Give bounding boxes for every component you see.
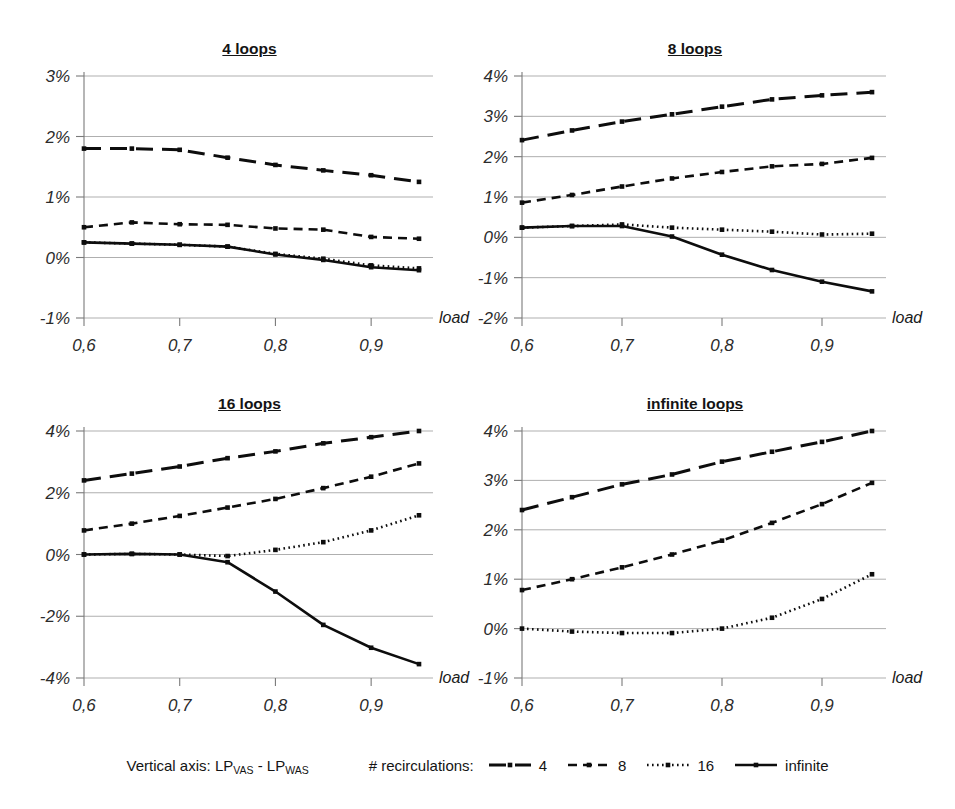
data-point-marker <box>130 471 135 476</box>
series-line-8 <box>522 483 872 590</box>
y-tick-label: 4% <box>483 422 508 441</box>
data-point-marker <box>670 176 675 181</box>
data-point-marker <box>820 232 825 237</box>
data-point-marker <box>321 168 326 173</box>
data-point-marker <box>177 464 182 469</box>
series-line-4 <box>522 431 872 510</box>
series-line-16 <box>522 574 872 633</box>
legend-swatch-long-dash <box>488 758 532 772</box>
legend-entry-infinite: infinite <box>734 757 828 774</box>
data-point-marker <box>620 119 625 124</box>
y-tick-label: 3% <box>483 471 508 490</box>
vertical-axis-note: Vertical axis: LPVAS - LPWAS <box>127 757 309 774</box>
legend-swatch-dot <box>646 758 690 772</box>
series-line-16 <box>84 515 419 556</box>
data-point-marker <box>520 225 525 230</box>
data-point-marker <box>720 626 725 631</box>
data-point-marker <box>82 240 87 245</box>
data-point-marker <box>82 225 87 230</box>
vertical-axis-note-prefix: Vertical axis: LP <box>127 757 234 774</box>
data-point-marker <box>570 224 575 229</box>
y-tick-label: -2% <box>40 607 70 626</box>
data-point-marker <box>820 597 825 602</box>
data-point-marker <box>520 588 525 593</box>
vertical-axis-note-sub-was: WAS <box>285 764 309 776</box>
data-point-marker <box>82 528 87 533</box>
y-tick-label: 1% <box>45 188 70 207</box>
x-tick-label: 0,8 <box>710 336 734 355</box>
y-tick-label: 0% <box>45 546 70 565</box>
data-point-marker <box>570 193 575 198</box>
data-point-marker <box>130 220 135 225</box>
data-point-marker <box>770 229 775 234</box>
data-point-marker <box>770 449 775 454</box>
legend-label: 4 <box>539 757 547 774</box>
data-point-marker <box>720 459 725 464</box>
data-point-marker <box>417 513 422 518</box>
y-tick-label: 2% <box>482 521 508 540</box>
legend-entry-list: 4816infinite <box>488 757 829 774</box>
x-tick-label: 0,7 <box>168 336 192 355</box>
legend-title: # recirculations: <box>369 757 474 774</box>
chart-plot-area: -4%-2%0%2%4%0,60,70,80,9load <box>22 417 477 740</box>
data-point-marker <box>82 478 87 483</box>
data-point-marker <box>369 173 374 178</box>
data-point-marker <box>417 268 422 273</box>
data-point-marker <box>520 626 525 631</box>
data-point-marker <box>570 128 575 133</box>
data-point-marker <box>570 495 575 500</box>
data-point-marker <box>520 200 525 205</box>
data-point-marker <box>177 222 182 227</box>
x-tick-label: 0,7 <box>610 696 634 715</box>
data-point-marker <box>177 514 182 519</box>
data-point-marker <box>273 589 278 594</box>
data-point-marker <box>369 645 374 650</box>
data-point-marker <box>417 662 422 667</box>
data-point-marker <box>130 241 135 246</box>
data-point-marker <box>369 528 374 533</box>
data-point-marker <box>321 441 326 446</box>
legend-label: 8 <box>618 757 626 774</box>
data-point-marker <box>369 474 374 479</box>
data-point-marker <box>130 521 135 526</box>
data-point-marker <box>670 552 675 557</box>
data-point-marker <box>82 146 87 151</box>
data-point-marker <box>770 615 775 620</box>
data-point-marker <box>670 631 675 636</box>
data-point-marker <box>720 170 725 175</box>
x-tick-label: 0,9 <box>810 696 834 715</box>
data-point-marker <box>670 234 675 239</box>
series-line-infinite <box>84 242 419 270</box>
series-line-infinite <box>84 554 419 664</box>
data-point-marker <box>870 156 875 161</box>
legend-entry-4: 4 <box>488 757 547 774</box>
data-point-marker <box>177 243 182 248</box>
y-tick-label: -4% <box>40 669 70 688</box>
series-line-4 <box>84 431 419 480</box>
x-tick-label: 0,7 <box>168 696 192 715</box>
y-tick-label: 0% <box>483 228 508 247</box>
series-line-8 <box>522 158 872 203</box>
y-tick-label: 0% <box>483 620 508 639</box>
y-tick-label: 2% <box>44 484 70 503</box>
y-tick-label: 1% <box>483 570 508 589</box>
y-tick-label: -2% <box>478 309 508 328</box>
data-point-marker <box>225 456 230 461</box>
chart-panel-16-loops: 16 loops-4%-2%0%2%4%0,60,70,80,9load <box>22 395 477 740</box>
data-point-marker <box>321 486 326 491</box>
legend-swatch-solid <box>734 758 778 772</box>
data-point-marker <box>225 155 230 160</box>
data-point-marker <box>417 180 422 185</box>
data-point-marker <box>620 631 625 636</box>
data-point-marker <box>720 104 725 109</box>
series-line-4 <box>84 149 419 182</box>
data-point-marker <box>720 538 725 543</box>
x-tick-label: 0,6 <box>72 696 96 715</box>
data-point-marker <box>273 497 278 502</box>
data-point-marker <box>770 164 775 169</box>
data-point-marker <box>820 279 825 284</box>
data-point-marker <box>870 231 875 236</box>
figure-root: 4 loops-1%0%1%2%3%0,60,70,80,9load8 loop… <box>0 0 955 809</box>
y-tick-label: -1% <box>478 269 508 288</box>
data-point-marker <box>520 508 525 513</box>
